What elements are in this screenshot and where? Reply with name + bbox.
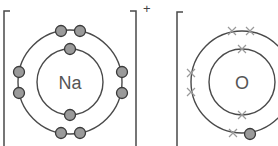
- ionic-bonding-diagram: + Na O: [0, 0, 278, 146]
- electron-dot: [75, 26, 86, 37]
- oxide-ion: O: [177, 12, 278, 146]
- element-symbol: Na: [58, 73, 82, 93]
- right-bracket: [130, 11, 136, 146]
- electron-dot: [117, 88, 128, 99]
- left-bracket: [4, 11, 10, 146]
- electron-dot: [65, 110, 76, 121]
- electron-dot: [65, 44, 76, 55]
- electron-dot: [56, 26, 67, 37]
- electron-dot: [14, 67, 25, 78]
- charge-label: +: [143, 1, 151, 16]
- electron-dot: [56, 128, 67, 139]
- element-symbol: O: [235, 73, 249, 93]
- sodium-ion: + Na: [4, 1, 151, 146]
- transferred-electron-dot: [245, 129, 256, 140]
- electron-dot: [117, 67, 128, 78]
- left-bracket: [177, 12, 183, 146]
- electron-dot: [14, 88, 25, 99]
- electron-dot: [75, 128, 86, 139]
